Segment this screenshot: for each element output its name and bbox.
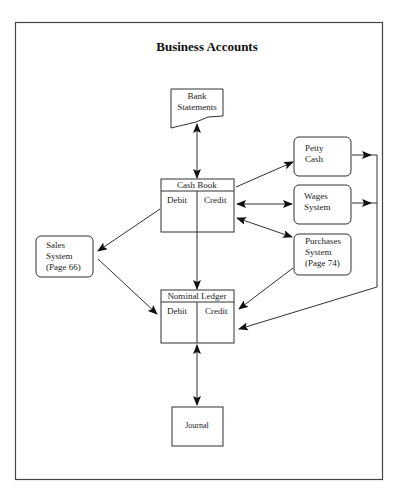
purchases-system-line2: System (305, 247, 332, 257)
node-wages-system: Wages System (294, 185, 351, 224)
node-petty-cash: Petty Cash (294, 137, 351, 176)
petty-cash-line1: Petty (305, 143, 324, 153)
diagram-title: Business Accounts (156, 39, 258, 54)
petty-cash-line2: Cash (305, 154, 324, 164)
node-cash-book: Cash Book Debit Credit (161, 179, 234, 232)
journal-label: Journal (185, 421, 209, 430)
wages-system-line1: Wages (304, 191, 328, 201)
node-nominal-ledger: Nominal Ledger Debit Credit (161, 290, 234, 343)
cash-book-credit: Credit (204, 195, 227, 205)
bank-statements-line2: Statements (177, 102, 217, 112)
nominal-ledger-credit: Credit (205, 306, 228, 316)
purchases-system-line1: Purchases (305, 236, 341, 246)
business-accounts-diagram: Business Accounts Bank Statements Cash B… (0, 0, 398, 499)
node-purchases-system: Purchases System (Page 74) (294, 234, 351, 275)
cash-book-header: Cash Book (177, 180, 217, 190)
sales-system-line3: (Page 66) (46, 262, 81, 272)
cash-book-debit: Debit (167, 195, 187, 205)
nominal-ledger-debit: Debit (167, 306, 187, 316)
sales-system-line1: Sales (46, 240, 65, 250)
node-sales-system: Sales System (Page 66) (36, 236, 93, 277)
wages-system-line2: System (304, 202, 331, 212)
bank-statements-line1: Bank (188, 91, 207, 101)
node-journal: Journal (172, 407, 223, 446)
sales-system-line2: System (46, 251, 73, 261)
nominal-ledger-header: Nominal Ledger (167, 291, 226, 301)
purchases-system-line3: (Page 74) (305, 258, 340, 268)
